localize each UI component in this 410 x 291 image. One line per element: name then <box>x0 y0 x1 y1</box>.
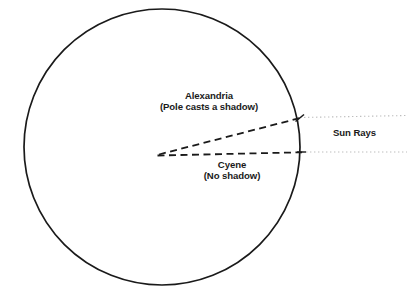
radius-to-cyene <box>158 152 303 155</box>
label-sun-rays: Sun Rays <box>333 128 376 139</box>
label-alexandria-line2: (Pole casts a shadow) <box>160 102 258 113</box>
sun-ray-alexandria <box>300 116 407 118</box>
label-alexandria: Alexandria (Pole casts a shadow) <box>160 91 258 112</box>
label-cyene-line2: (No shadow) <box>204 171 260 182</box>
label-cyene: Cyene (No shadow) <box>204 160 260 181</box>
label-cyene-line1: Cyene <box>204 160 260 171</box>
radius-to-alexandria <box>159 118 300 155</box>
diagram-canvas <box>0 0 410 291</box>
eratosthenes-diagram: Alexandria (Pole casts a shadow) Cyene (… <box>0 0 410 291</box>
label-alexandria-line1: Alexandria <box>160 91 258 102</box>
earth-circle <box>24 9 300 285</box>
